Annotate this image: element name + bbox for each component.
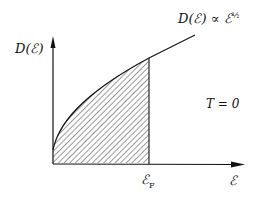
temperature-label: T = 0	[206, 97, 239, 111]
curve-label-text: D(ℰ) ∝ ℰ	[178, 11, 232, 26]
density-of-states-diagram: D(ℰ) D(ℰ) ∝ ℰ½ T = 0 ℰF ℰ	[0, 0, 260, 198]
curve-label: D(ℰ) ∝ ℰ½	[178, 11, 239, 26]
y-axis-arrow-icon	[51, 36, 56, 48]
x-axis-arrow-icon	[231, 162, 245, 168]
curve-label-exponent: ½	[232, 11, 240, 20]
fermi-energy-symbol: ℰ	[141, 172, 149, 187]
x-axis-label: ℰ	[229, 173, 237, 188]
fermi-energy-subscript: F	[149, 181, 155, 190]
fermi-energy-label: ℰF	[141, 172, 155, 190]
x-axis	[53, 164, 236, 165]
occupied-states-region	[53, 58, 149, 163]
y-axis-label: D(ℰ)	[15, 41, 44, 56]
